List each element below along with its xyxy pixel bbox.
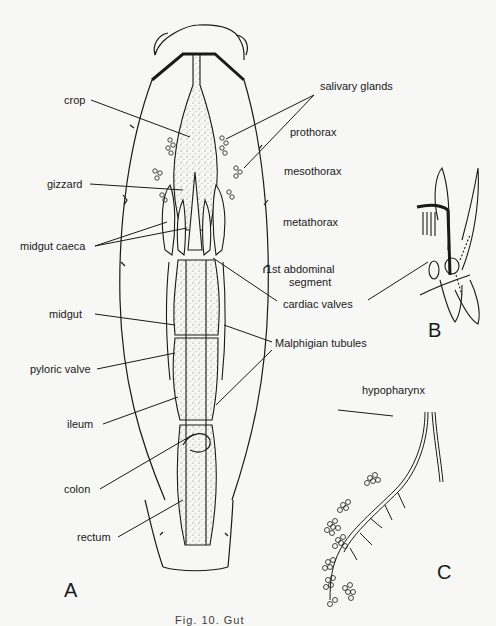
panel-letter-b: B: [428, 320, 441, 340]
label-colon: colon: [64, 483, 90, 495]
label-hypopharynx: hypopharynx: [362, 384, 425, 396]
gut: [166, 55, 225, 545]
leader-lines: [90, 95, 428, 537]
label-ileum: ileum: [67, 418, 93, 430]
label-first-abdominal-segment-line2: segment: [289, 276, 331, 288]
label-salivary-glands: salivary glands: [320, 80, 393, 92]
label-crop: crop: [64, 94, 85, 106]
label-first-abdominal-segment-line1: 1st abdominal: [266, 263, 335, 275]
label-cardiac-valves: cardiac valves: [283, 298, 353, 310]
label-midgut-caeca: midgut caeca: [20, 240, 85, 252]
label-midgut: midgut: [49, 308, 82, 320]
figure-caption: Fig. 10. Gut: [175, 614, 244, 626]
label-prothorax: prothorax: [290, 126, 336, 138]
label-gizzard: gizzard: [47, 178, 82, 190]
panel-letter-c: C: [437, 562, 451, 582]
label-mesothorax: mesothorax: [284, 165, 341, 177]
panel-b-cardiac-valve-detail: [417, 168, 479, 324]
label-malphigian-tubules: Malphigian tubules: [275, 337, 367, 349]
label-pyloric-valve: pyloric valve: [30, 363, 91, 375]
label-rectum: rectum: [77, 531, 111, 543]
panel-letter-a: A: [64, 580, 77, 600]
label-metathorax: metathorax: [283, 216, 338, 228]
